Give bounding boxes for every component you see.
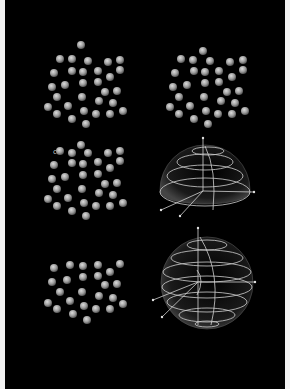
panel-sphere-cluster-a [5,0,145,130]
sphere-cluster-c [5,130,145,260]
sphere-cluster-b [145,0,285,130]
sphere-cluster-e [5,260,145,389]
sphere-cluster-a [5,0,145,130]
panel-sphere-cluster-c: c [5,130,145,260]
figure-frame: c [5,0,285,389]
panel-sphere-cluster-e [5,260,145,389]
panel-sphere-cluster-b [145,0,285,130]
sphere-diagram [145,225,285,355]
panel-sphere-spiral [145,225,285,355]
